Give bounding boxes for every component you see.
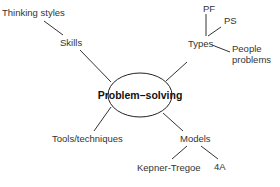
node-models: Models: [180, 133, 211, 144]
center-node-label: Problem–solving: [98, 89, 183, 101]
connector-types-people-problems: [212, 45, 230, 52]
connector-types-ps: [208, 27, 221, 36]
node-4a: 4A: [214, 161, 226, 172]
connector-center-tools: [94, 107, 111, 131]
connector-models-4a: [201, 146, 218, 159]
connector-center-models: [163, 113, 183, 131]
node-people-problems-line2: problems: [232, 54, 271, 65]
node-skills: Skills: [60, 37, 82, 48]
connector-center-skills: [80, 50, 111, 82]
node-types: Types: [188, 38, 214, 49]
connector-models-kepner-tregoe: [172, 146, 187, 159]
node-tools-techniques: Tools/techniques: [52, 133, 123, 144]
node-thinking-styles: Thinking styles: [2, 7, 65, 18]
node-people-problems-line1: People: [232, 43, 262, 54]
node-pf: PF: [203, 3, 215, 14]
mind-map-diagram: Problem–solving Thinking styles Skills P…: [0, 0, 280, 187]
connector-center-types: [166, 62, 187, 81]
node-ps: PS: [224, 15, 237, 26]
node-kepner-tregoe: Kepner-Tregoe: [137, 162, 201, 173]
connector-skills-thinking-styles: [44, 21, 63, 35]
